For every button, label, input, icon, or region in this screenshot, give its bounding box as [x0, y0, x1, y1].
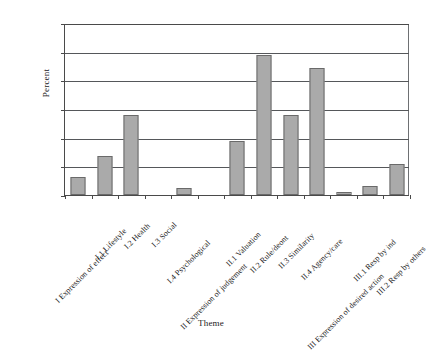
bar[interactable]	[177, 188, 192, 195]
x-tick-label: I.2 Health	[123, 221, 153, 251]
bar[interactable]	[283, 115, 298, 195]
bar[interactable]	[310, 68, 325, 195]
bar[interactable]	[71, 177, 86, 195]
x-tick-mark	[410, 195, 411, 199]
bar-slot	[304, 24, 331, 195]
bar-slot	[145, 24, 172, 195]
bar-slot	[357, 24, 384, 195]
bar-slot	[251, 24, 278, 195]
x-tick-label: I.4 Psychological	[166, 238, 213, 285]
bar[interactable]	[257, 55, 272, 195]
bar[interactable]	[230, 141, 245, 195]
bar[interactable]	[97, 156, 112, 195]
bar[interactable]	[389, 164, 404, 195]
bar-slot	[198, 24, 225, 195]
bar-slot	[277, 24, 304, 195]
plot-area: 0%5%10%15%20%25%30%	[64, 24, 409, 196]
x-axis-tick-labels: I Expression of effectI.1 LifestyleI.2 H…	[64, 198, 409, 298]
bar[interactable]	[363, 186, 378, 195]
bar[interactable]	[124, 115, 139, 195]
x-axis-title: Theme	[0, 318, 422, 328]
bars-layer	[65, 24, 409, 195]
y-axis-title: Percent	[41, 43, 51, 123]
bar-slot	[171, 24, 198, 195]
bar-slot	[224, 24, 251, 195]
bar-slot	[118, 24, 145, 195]
x-tick-label: III Expression of desired action	[306, 272, 386, 352]
bar-slot	[65, 24, 92, 195]
bar-slot	[330, 24, 357, 195]
bar-slot	[383, 24, 410, 195]
bar[interactable]	[336, 192, 351, 195]
bar-slot	[92, 24, 119, 195]
x-tick-label: I.3 Social	[150, 220, 179, 249]
